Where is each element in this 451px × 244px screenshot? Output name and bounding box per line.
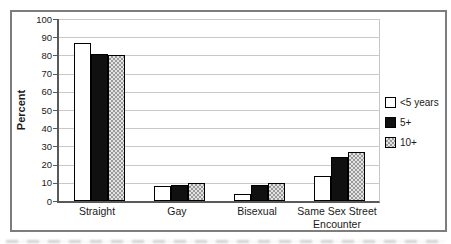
bar-straight-5-years [74,43,91,201]
bar-bisexual-5 [251,185,268,201]
legend-swatch-10 [385,137,396,148]
legend-item-5: 5+ [385,116,411,128]
cutoff-caption-remnant [6,240,445,243]
gridline-90 [59,37,379,38]
bar-gay-5 [171,185,188,201]
bar-same-sex-street-encounter-10 [348,152,365,201]
legend-swatch-5 [385,117,396,128]
bar-gay-10 [188,183,205,201]
x-category-label-bisexual: Bisexual [213,205,301,218]
bar-same-sex-street-encounter-5 [331,157,348,201]
bar-gay-5-years [154,186,171,201]
y-axis-title-text: Percent [16,90,28,130]
bar-straight-10 [108,55,125,201]
page: { "chart_data": { "type": "bar", "title"… [0,0,451,244]
legend-item-10: 10+ [385,136,417,148]
legend-label-5-years: <5 years [400,97,439,108]
legend-item-5-years: <5 years [385,96,439,108]
x-category-label-gay: Gay [133,205,221,218]
x-category-label-same-sex-street-encounter: Same Sex Street Encounter [293,205,381,231]
bar-bisexual-5-years [234,194,251,201]
plot-area [57,19,380,203]
chart-frame: Percent 1009080706050403020100 StraightG… [10,10,447,232]
legend-swatch-5-years [385,97,396,108]
bar-same-sex-street-encounter-5-years [314,176,331,201]
legend-label-5: 5+ [400,117,411,128]
legend-label-10: 10+ [400,137,417,148]
gridline-100 [59,19,379,20]
bar-straight-5 [91,54,108,201]
bar-bisexual-10 [268,183,285,201]
x-category-label-straight: Straight [53,205,141,218]
y-axis-title: Percent [13,19,30,201]
